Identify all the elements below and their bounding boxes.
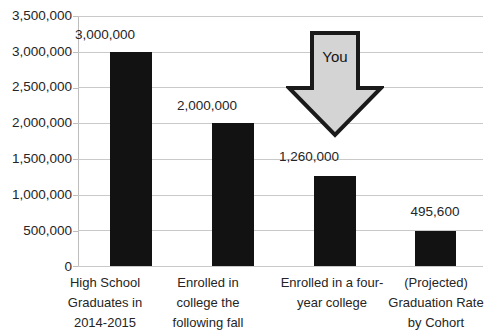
y-tick-label: 1,000,000 (0, 188, 72, 202)
y-tick-label: 2,000,000 (0, 116, 72, 130)
bar-value-label: 2,000,000 (162, 99, 252, 113)
bar-projected-graduation (415, 231, 456, 266)
plot-area (78, 16, 483, 266)
y-tick-label: 2,500,000 (0, 80, 72, 94)
category-label-line: Graduation Rate (383, 293, 489, 313)
y-tick-label: 1,500,000 (0, 152, 72, 166)
bar-value-label: 1,260,000 (264, 150, 354, 164)
bar-enrolled-in-college (212, 123, 254, 266)
category-label-line: (Projected) (383, 273, 489, 293)
y-tick-label: 3,000,000 (0, 45, 72, 59)
category-label-line: year college (276, 293, 388, 313)
y-tick-label: 0 (0, 260, 72, 274)
category-label-line: following fall (163, 313, 253, 333)
category-label-line: Enrolled in (163, 273, 253, 293)
category-label-line: High School (58, 273, 152, 293)
you-arrow-annotation: You (286, 30, 384, 138)
bar-value-label: 3,000,000 (60, 28, 150, 42)
gridline (78, 16, 483, 17)
bar-chart: 3,500,000 3,000,000 2,500,000 2,000,000 … (0, 0, 489, 336)
gridline (78, 266, 483, 267)
y-tick-label: 500,000 (0, 224, 72, 238)
down-arrow-icon (286, 30, 384, 138)
bar-value-label: 495,600 (390, 205, 480, 219)
category-label-high-school-graduates: High School Graduates in 2014-2015 (58, 273, 152, 332)
category-label-line: Enrolled in a four- (276, 273, 388, 293)
category-label-projected-graduation: (Projected) Graduation Rate by Cohort (383, 273, 489, 332)
category-label-enrolled-in-college: Enrolled in college the following fall (163, 273, 253, 332)
category-label-line: college the (163, 293, 253, 313)
category-label-line: by Cohort (383, 313, 489, 333)
category-label-enrolled-four-year: Enrolled in a four- year college (276, 273, 388, 313)
category-label-line: Graduates in (58, 293, 152, 313)
bar-high-school-graduates (110, 52, 152, 266)
y-tick-label: 3,500,000 (0, 9, 72, 23)
bar-enrolled-four-year (314, 176, 356, 266)
category-label-line: 2014-2015 (58, 313, 152, 333)
